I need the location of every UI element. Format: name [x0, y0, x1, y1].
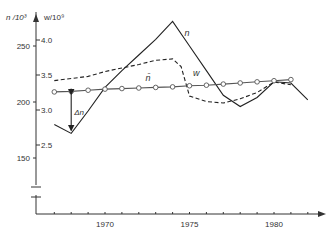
series-label-n: n — [184, 28, 189, 38]
data-point — [120, 86, 125, 91]
y-right-tick-label: 3.0 — [41, 106, 53, 115]
series-n — [54, 21, 307, 133]
delta-n-label: Δn — [73, 108, 84, 117]
data-point — [187, 83, 192, 88]
data-point — [69, 89, 74, 94]
y-right-tick-label: 3.5 — [41, 71, 53, 80]
data-point — [137, 86, 142, 91]
data-point — [221, 82, 226, 87]
data-point — [289, 77, 294, 82]
data-point — [86, 88, 91, 93]
data-point — [153, 85, 158, 90]
data-point — [238, 81, 243, 86]
data-point — [272, 78, 277, 83]
data-point — [204, 83, 209, 88]
y-left-tick-label: 150 — [17, 154, 31, 163]
y-right-label: w/10⁹ — [43, 13, 64, 22]
labels: n /10³w/10⁹nwn̄Δn — [6, 13, 200, 130]
data-point — [103, 87, 108, 92]
series-label-w: w — [193, 68, 200, 78]
data-point — [170, 85, 175, 90]
data-point — [255, 80, 260, 85]
data-point — [52, 90, 57, 95]
axes: 1970197519801502002502.53.03.54.0 — [17, 12, 326, 229]
series-label-n-bar: n̄ — [146, 73, 151, 83]
series-group — [52, 21, 308, 133]
line-chart: 1970197519801502002502.53.03.54.0 n /10³… — [0, 0, 331, 231]
y-right-tick-label: 2.5 — [41, 141, 53, 150]
x-tick-label: 1975 — [181, 220, 199, 229]
x-tick-label: 1970 — [96, 220, 114, 229]
x-tick-label: 1980 — [265, 220, 283, 229]
y-left-tick-label: 250 — [17, 42, 31, 51]
y-right-tick-label: 4.0 — [41, 36, 53, 45]
y-left-tick-label: 200 — [17, 98, 31, 107]
y-left-label: n /10³ — [6, 13, 27, 22]
